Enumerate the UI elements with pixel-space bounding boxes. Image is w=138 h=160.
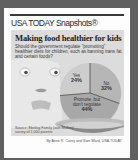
pie-label-no: No 32%: [101, 81, 112, 91]
pie-chart: [59, 62, 121, 124]
snapshot-card: USA TODAY Snapshots® Making food healthi…: [4, 8, 130, 158]
byline: By Anne R. Carey and Sam Ward, USA TODAY: [46, 139, 122, 143]
pie-label-promote: Promote, but don't regulate 44%: [73, 97, 101, 112]
source-note: Source: Ebeling Family (with Mullins) su…: [15, 126, 75, 134]
chart-title: Making food healthier for kids: [15, 33, 121, 43]
brand-header: USA TODAY Snapshots®: [11, 18, 97, 28]
chart-panel: Making food healthier for kids Should th…: [11, 30, 124, 136]
snapshot-frame: USA TODAY Snapshots® Making food healthi…: [0, 0, 138, 160]
pie-label-yes: Yes 24%: [71, 73, 82, 83]
header-rule: [10, 14, 124, 16]
